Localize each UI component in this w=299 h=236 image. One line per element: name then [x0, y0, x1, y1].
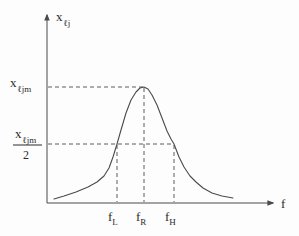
y-axis-label: xℓj	[56, 9, 70, 28]
tick-label-f-l: fL	[108, 209, 118, 227]
tick-label-f-h: fH	[165, 209, 176, 227]
resonance-curve-figure: xℓj xℓjm xℓjm 2 fL fR fH f	[0, 0, 299, 236]
resonance-curve	[54, 87, 233, 199]
peak-level-label: xℓjm	[10, 75, 31, 94]
tick-label-f-r: fR	[136, 209, 146, 227]
half-level-numerator: xℓjm	[15, 126, 36, 145]
x-axis-label: f	[281, 196, 286, 211]
figure-canvas: xℓj xℓjm xℓjm 2 fL fR fH f	[0, 0, 299, 236]
half-level-label: xℓjm 2	[13, 126, 42, 162]
half-level-denominator: 2	[23, 148, 29, 162]
